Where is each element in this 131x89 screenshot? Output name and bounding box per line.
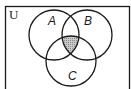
set-a-label: A (47, 14, 56, 28)
venn-diagram: U A B C (0, 0, 131, 89)
set-b-label: B (84, 14, 92, 28)
universe-label: U (9, 7, 19, 22)
set-c-label: C (68, 69, 77, 83)
